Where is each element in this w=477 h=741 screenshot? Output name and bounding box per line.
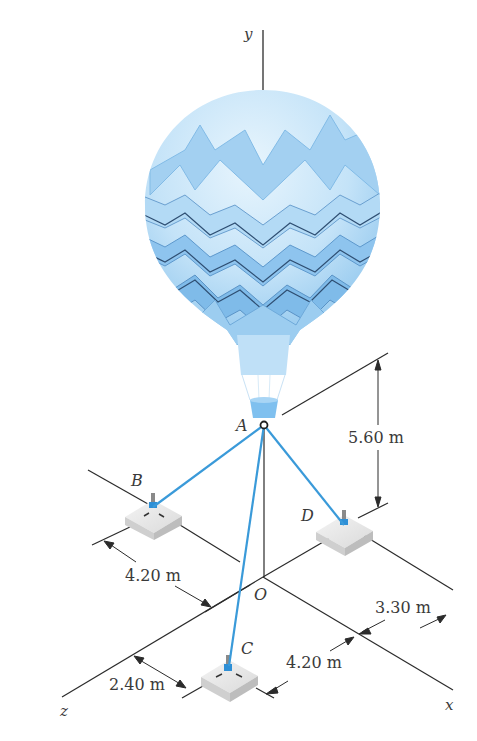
balloon-cable-diagram: y x z O A B C D 5.60 m 4.20 m 3.30 m 4.2… xyxy=(0,0,477,741)
point-label-d: D xyxy=(301,508,314,524)
axis-label-y: y xyxy=(244,27,252,42)
dimension-4-20-c: 4.20 m xyxy=(286,655,342,671)
cable-ab xyxy=(153,425,264,507)
cable-ac xyxy=(229,425,264,666)
point-label-b: B xyxy=(131,473,143,489)
dimension-2-40: 2.40 m xyxy=(109,677,165,693)
anchor-block-d xyxy=(316,510,373,556)
point-label-c: C xyxy=(241,641,253,657)
cables xyxy=(153,425,344,666)
dimension-4-20-b: 4.20 m xyxy=(125,568,181,584)
origin-label-o: O xyxy=(254,587,267,603)
dimension-5-60: 5.60 m xyxy=(348,430,404,446)
axis-label-z: z xyxy=(60,704,68,719)
anchor-block-b xyxy=(125,493,182,540)
balloon xyxy=(140,90,385,418)
point-label-a: A xyxy=(236,418,248,434)
dimension-3-30: 3.30 m xyxy=(375,600,431,616)
diagram-canvas xyxy=(0,0,477,741)
ring-a xyxy=(261,422,268,429)
axis-label-x: x xyxy=(445,698,453,713)
